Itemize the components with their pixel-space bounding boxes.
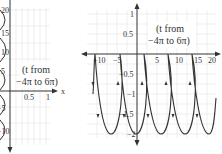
annotation: (t from [22,64,50,76]
x-tick: 15 [194,56,202,65]
x-tick: 5 [155,56,159,65]
y-tick: 15 [1,29,9,38]
annotation: −4π to 6π) [148,35,190,47]
right-chart: −10 −5 5 10 15 20 1 0.5 −0.5 −1 −1.5 −2 … [81,3,221,146]
annotation: −4π to 6π) [16,76,58,88]
x-tick: 10 [175,56,183,65]
x-tick: 20 [208,56,216,65]
y-tick: −2 [127,130,136,139]
y-tick: −1 [127,90,136,99]
y-tick: 0.5 [123,30,133,39]
x-tick: 1 [46,93,50,102]
left-chart: x 0.5 1 20 15 10 5 −5 −10 (t from −4π to… [0,0,65,153]
annotation: (t from [156,23,184,35]
x-tick: 0.5 [24,93,34,102]
y-tick: 20 [1,6,9,15]
charts: x 0.5 1 20 15 10 5 −5 −10 (t from −4π to… [0,0,222,154]
x-axis-label: x [61,87,65,96]
y-tick: 1 [130,10,134,19]
